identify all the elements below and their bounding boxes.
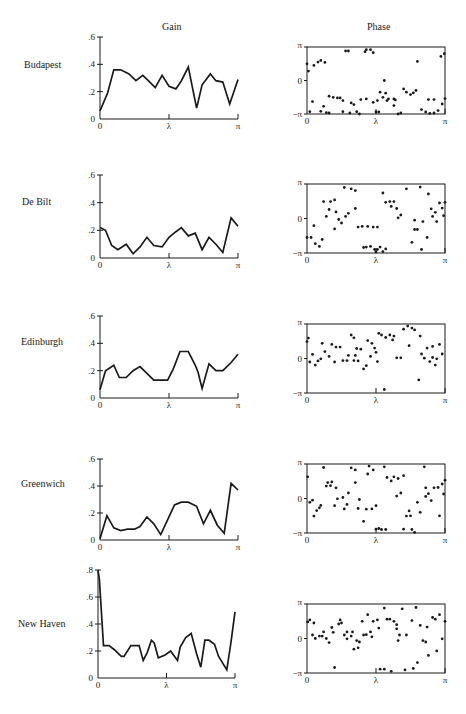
phase-point	[313, 622, 316, 625]
x-tick-label: 0	[305, 255, 310, 265]
x-tick-label: π	[443, 535, 448, 545]
gain-line	[100, 67, 238, 111]
phase-point	[350, 102, 353, 105]
phase-point	[442, 214, 445, 217]
phase-point	[365, 246, 368, 249]
phase-point	[365, 633, 368, 636]
phase-point	[424, 495, 427, 498]
phase-point	[311, 634, 314, 637]
gain-column-title: Gain	[162, 22, 181, 32]
x-tick-label: 0	[305, 535, 310, 545]
phase-point	[333, 361, 336, 364]
station-label-de-bilt: De Bilt	[22, 197, 51, 207]
phase-point	[405, 91, 408, 94]
phase-point	[355, 639, 358, 642]
y-tick-label: .2	[88, 225, 95, 235]
phase-point	[307, 70, 310, 73]
phase-point	[306, 621, 309, 624]
phase-point	[346, 359, 349, 362]
y-tick-label: 0	[298, 76, 303, 86]
phase-point	[384, 336, 387, 339]
phase-point	[372, 620, 375, 623]
phase-point	[388, 618, 391, 621]
phase-point	[395, 356, 398, 359]
phase-point	[443, 52, 446, 55]
y-tick-label: 0	[298, 494, 303, 504]
gain-line	[100, 483, 238, 538]
phase-point	[361, 620, 364, 623]
phase-point	[362, 246, 365, 249]
phase-point	[438, 613, 441, 616]
x-tick-label: λ	[167, 121, 172, 131]
phase-point	[427, 98, 430, 101]
y-tick-label: 0	[91, 393, 96, 403]
phase-chart-new-haven: −π0π0λπ	[307, 604, 445, 673]
phase-point	[373, 347, 376, 350]
phase-point	[358, 113, 361, 116]
station-label-new-haven: New Haven	[18, 619, 65, 629]
phase-point	[395, 495, 398, 498]
phase-point	[313, 224, 316, 227]
phase-point	[433, 486, 436, 489]
phase-point	[366, 339, 369, 342]
phase-point	[393, 104, 396, 107]
phase-point	[424, 486, 427, 489]
phase-point	[434, 364, 437, 367]
phase-point	[380, 334, 383, 337]
phase-point	[390, 205, 393, 208]
phase-point	[420, 248, 423, 251]
x-tick-label: 0	[96, 680, 101, 690]
y-tick-label: .2	[88, 366, 95, 376]
phase-point	[317, 360, 320, 363]
phase-point	[353, 103, 356, 106]
phase-point	[395, 627, 398, 630]
phase-point	[383, 668, 386, 671]
y-tick-label: .6	[88, 311, 95, 321]
phase-point	[333, 666, 336, 669]
phase-point	[306, 236, 309, 239]
phase-point	[398, 634, 401, 637]
phase-point	[353, 359, 356, 362]
budapest-phase-plot-area: −π0π0λπ	[307, 47, 445, 114]
new-haven-gain-plot-area: 0.2.4.6.80λπ	[98, 570, 235, 678]
phase-point	[441, 353, 444, 356]
phase-point	[329, 484, 332, 487]
phase-chart-budapest: −π0π0λπ	[307, 47, 445, 114]
phase-point	[319, 504, 322, 507]
phase-point	[379, 246, 382, 249]
phase-point	[413, 531, 416, 534]
phase-point	[431, 616, 434, 619]
station-label-budapest: Budapest	[24, 60, 61, 70]
phase-point	[415, 606, 418, 609]
phase-point	[368, 465, 371, 468]
phase-point	[343, 508, 346, 511]
phase-point	[402, 88, 405, 91]
phase-point	[377, 111, 380, 114]
phase-point	[325, 485, 328, 488]
x-tick-label: π	[236, 400, 241, 410]
phase-point	[426, 347, 429, 350]
phase-point	[365, 98, 368, 101]
phase-point	[311, 100, 314, 103]
phase-point	[416, 60, 419, 63]
phase-point	[306, 62, 309, 65]
phase-point	[405, 634, 408, 637]
phase-point	[319, 357, 322, 360]
phase-point	[405, 187, 408, 190]
x-tick-label: λ	[167, 400, 172, 410]
phase-point	[357, 226, 360, 229]
phase-point	[330, 481, 333, 484]
x-tick-label: π	[443, 395, 448, 405]
y-tick-label: .4	[88, 338, 95, 348]
phase-point	[382, 192, 385, 195]
phase-point	[365, 364, 368, 367]
phase-point	[342, 496, 345, 499]
phase-point	[321, 238, 324, 241]
phase-point	[399, 214, 402, 217]
phase-point	[314, 242, 317, 245]
phase-point	[375, 251, 378, 254]
phase-chart-greenwich: −π0π0λπ	[307, 464, 445, 533]
phase-point	[393, 620, 396, 623]
phase-point	[377, 527, 380, 530]
phase-point	[444, 201, 447, 204]
